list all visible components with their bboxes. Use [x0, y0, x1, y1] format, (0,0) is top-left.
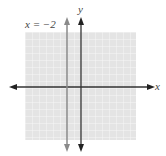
- x-axis-label: x: [155, 81, 160, 92]
- y-axis-top-arrow-icon: [78, 17, 84, 25]
- x-axis-right-arrow-icon: [147, 84, 155, 90]
- equation-label: x = −2: [25, 19, 56, 30]
- x-axis-left-arrow-icon: [9, 84, 17, 90]
- line-bottom-arrow-icon: [64, 144, 70, 152]
- y-axis-label: y: [78, 4, 83, 15]
- y-axis-bottom-arrow-icon: [78, 144, 84, 152]
- line-top-arrow-icon: [64, 17, 70, 25]
